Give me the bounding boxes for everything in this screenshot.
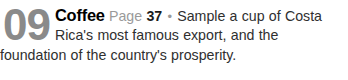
listing-item[interactable]: 09 Coffee Page 37 • Sample a cup of Cost… — [0, 0, 348, 80]
item-number: 09 — [3, 6, 50, 44]
page-number: 37 — [146, 8, 162, 24]
entry-title[interactable]: Coffee — [55, 6, 105, 24]
entry-body: Coffee Page 37 • Sample a cup of Costa R… — [0, 0, 348, 65]
bullet-separator-icon: • — [166, 9, 173, 24]
page-label: Page — [109, 8, 142, 24]
